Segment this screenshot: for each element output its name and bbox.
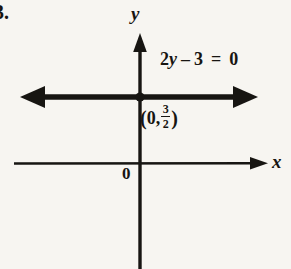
graph-figure: 3. y x 0 2y–3=0 (0, 3 2 )	[0, 0, 291, 269]
equation-right-side: 0	[229, 49, 238, 69]
point-x-coordinate: 0	[147, 109, 156, 127]
equation-constant: 3	[194, 49, 203, 69]
equation-coefficient: 2	[160, 49, 169, 69]
y-axis-arrowhead-icon	[133, 33, 147, 52]
point-marker-dot	[135, 92, 144, 101]
equation-annotation: 2y–3=0	[160, 50, 238, 68]
point-y-coordinate-fraction: 3 2	[161, 103, 170, 130]
x-axis-label: x	[272, 152, 282, 171]
equation-variable: y	[169, 49, 177, 69]
point-close-paren: )	[171, 108, 178, 128]
point-comma: ,	[156, 109, 161, 127]
equation-minus-sign: –	[181, 49, 190, 69]
origin-label: 0	[122, 165, 131, 182]
equation-line-left-arrowhead-icon	[20, 86, 45, 108]
point-annotation: (0, 3 2 )	[140, 104, 178, 131]
problem-number: 3.	[0, 2, 9, 22]
equation-line-right-arrowhead-icon	[233, 86, 258, 108]
x-axis-arrowhead-icon	[250, 157, 268, 169]
y-axis-label: y	[131, 4, 139, 23]
fraction-denominator: 2	[162, 118, 170, 130]
equation-equals-sign: =	[211, 49, 221, 69]
point-open-paren: (	[140, 108, 147, 128]
coordinate-plane-svg	[0, 0, 291, 269]
fraction-numerator: 3	[162, 103, 170, 115]
y-axis	[133, 33, 147, 269]
